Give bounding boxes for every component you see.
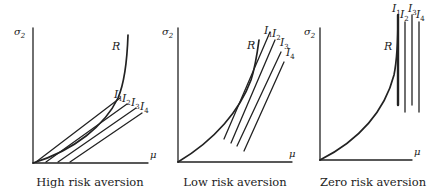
opportunity-curve-r (320, 16, 398, 160)
caption-high-risk-aversion: High risk aversion (36, 175, 143, 189)
sigma-symbol: σ (162, 26, 169, 37)
curve-label-r: R (112, 40, 120, 53)
sigma-subscript: 2 (21, 32, 25, 40)
caption-zero-risk-aversion: Zero risk aversion (320, 175, 426, 189)
diagram-canvas (0, 0, 445, 192)
indifference-label-2: I2 (122, 92, 131, 107)
y-axis-label: σ2 (14, 26, 25, 40)
x-axis-label: μ (289, 148, 296, 159)
sigma-subscript: 2 (311, 32, 315, 40)
risk-aversion-figure: σ2 R I1 I2 I3 I4 μ High risk aversion σ2… (0, 0, 445, 192)
x-axis-label: μ (414, 146, 421, 157)
caption-low-risk-aversion: Low risk aversion (183, 175, 286, 189)
panel-zero-risk-aversion (320, 15, 419, 160)
indifference-line-2 (46, 104, 127, 162)
y-axis-label: σ2 (304, 26, 315, 40)
indifference-label-4: I4 (416, 8, 425, 23)
curve-label-r: R (247, 39, 255, 52)
x-axis-label: μ (150, 149, 157, 160)
indifference-line-3 (237, 52, 281, 146)
curve-label-r: R (384, 40, 392, 53)
indifference-line-4 (244, 62, 284, 151)
indifference-line-1 (36, 98, 120, 162)
sigma-symbol: σ (304, 26, 311, 37)
sigma-subscript: 2 (169, 32, 173, 40)
indifference-label-4: I4 (286, 46, 295, 61)
sigma-symbol: σ (14, 26, 21, 37)
indifference-label-3: I3 (131, 96, 140, 111)
indifference-label-4: I4 (140, 100, 149, 115)
indifference-line-2 (231, 40, 275, 143)
y-axis-label: σ2 (162, 26, 173, 40)
panel-low-risk-aversion (178, 28, 292, 162)
